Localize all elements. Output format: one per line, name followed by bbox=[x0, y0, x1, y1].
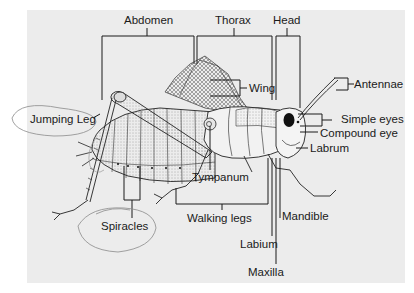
head-bracket bbox=[276, 28, 300, 108]
label-abdomen: Abdomen bbox=[124, 15, 173, 27]
label-antennae: Antennae bbox=[354, 79, 403, 91]
thorax-shape bbox=[204, 107, 282, 159]
label-mandible: Mandible bbox=[282, 211, 329, 223]
head-shape bbox=[276, 108, 306, 158]
label-tympanum: Tympanum bbox=[192, 172, 249, 184]
label-thorax: Thorax bbox=[215, 15, 251, 27]
label-head: Head bbox=[273, 15, 301, 27]
label-jumping-leg: Jumping Leg bbox=[30, 114, 96, 126]
wing-shape bbox=[165, 56, 250, 112]
grasshopper-illustration bbox=[0, 0, 414, 293]
label-labium: Labium bbox=[240, 239, 278, 251]
compound-eye-shape bbox=[284, 113, 295, 127]
label-walking-legs: Walking legs bbox=[187, 213, 252, 225]
label-maxilla: Maxilla bbox=[248, 267, 284, 279]
label-spiracles: Spiracles bbox=[101, 221, 148, 233]
label-labrum: Labrum bbox=[310, 143, 349, 155]
label-simple-eyes: Simple eyes bbox=[341, 114, 404, 126]
label-wing: Wing bbox=[249, 83, 275, 95]
label-compound-eye: Compound eye bbox=[320, 128, 398, 140]
